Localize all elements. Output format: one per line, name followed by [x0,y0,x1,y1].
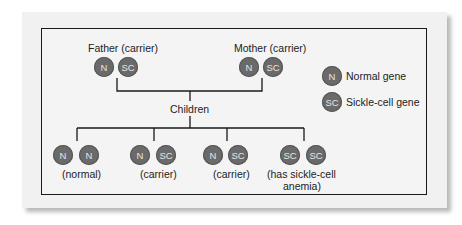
child1-gene-b: N [79,145,99,165]
child1-label: (normal) [62,168,101,180]
child4-gene-a: SC [280,145,300,165]
child2-gene-a: N [130,145,150,165]
child2-label: (carrier) [140,168,177,180]
mother-label: Mother (carrier) [234,42,306,54]
legend-normal-icon: N [322,66,342,86]
child2-gene-b: SC [156,145,176,165]
child1-gene-a: N [53,145,73,165]
child3-label: (carrier) [213,168,250,180]
legend-sickle-icon: SC [322,92,342,112]
child4-gene-b: SC [306,145,326,165]
child3-gene-b: SC [228,145,248,165]
father-label: Father (carrier) [88,42,158,54]
child3-gene-a: N [203,145,223,165]
mother-gene-normal: N [239,57,259,77]
mother-gene-sickle: SC [263,57,283,77]
connector-lines [0,0,462,225]
legend-normal-label: Normal gene [346,70,406,82]
children-label: Children [170,103,209,115]
father-gene-normal: N [94,57,114,77]
father-gene-sickle: SC [118,57,138,77]
child4-label-line2: anemia) [283,180,321,192]
child4-label-line1: (has sickle-cell [267,168,336,180]
legend-sickle-label: Sickle-cell gene [346,96,420,108]
